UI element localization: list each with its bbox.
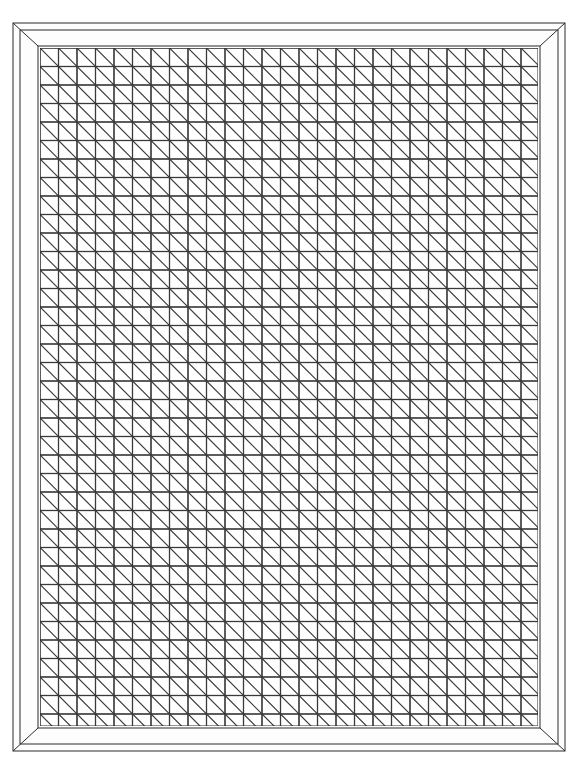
pinwheel-pattern bbox=[40, 48, 558, 751]
artwork-canvas bbox=[0, 0, 578, 774]
artwork-stage bbox=[0, 0, 578, 774]
